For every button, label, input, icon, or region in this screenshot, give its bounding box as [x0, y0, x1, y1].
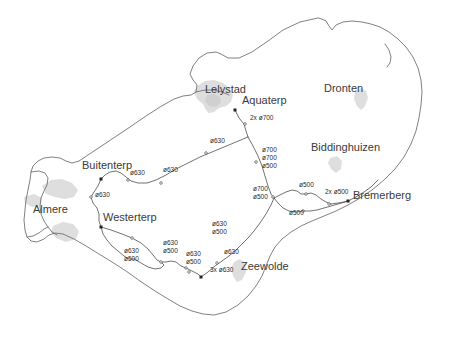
node-valve-marker: [328, 203, 331, 206]
urban-area-dronten: [354, 88, 368, 110]
urban-area-biddinghuizen: [328, 156, 342, 173]
pipe-diameter-label: ø630ø500: [124, 247, 139, 263]
node-valve-marker: [305, 193, 308, 196]
pipe-diameter-label: ø630: [163, 166, 178, 174]
node-station-marker: [347, 200, 350, 203]
pipe-diameter-label: ø630: [130, 169, 145, 177]
pipe-diameter-label: 2x ø700: [250, 114, 274, 122]
node-valve-marker: [205, 152, 208, 155]
node-valve-marker: [255, 161, 258, 164]
pipe-diameter-label: ø630ø500: [212, 220, 227, 236]
pipe-diameter-label: 3x ø630: [210, 266, 234, 274]
node-valve-marker: [90, 196, 93, 199]
node-valve-marker: [160, 182, 163, 185]
coastline-detail-ne: [385, 44, 391, 67]
pipe-diameter-label: ø630: [95, 191, 110, 199]
pipe-diameter-label: 2x ø500: [325, 188, 349, 196]
pipe-diameter-label: ø500: [299, 181, 314, 189]
node-valve-marker: [216, 262, 219, 265]
pipe-north-west-corridor: [101, 137, 248, 183]
node-valve-marker: [272, 196, 275, 199]
map-canvas: [0, 0, 450, 350]
coastline-detail-notch: [27, 227, 48, 237]
pipe-diameter-label: ø630ø500: [186, 250, 201, 266]
node-valve-marker: [160, 261, 163, 264]
flevoland-pipeline-map: LelystadAquaterpDrontenBiddinghuizenBrem…: [0, 0, 450, 350]
pipe-bremerberg-coast: [348, 180, 378, 201]
node-station-marker: [200, 276, 203, 279]
pipe-buitenterp-south: [91, 179, 101, 227]
node-station-marker: [100, 178, 103, 181]
node-valve-marker: [244, 123, 247, 126]
pipe-diameter-label: ø700ø700ø500: [262, 146, 277, 170]
pipe-diameter-label: ø630: [210, 137, 225, 145]
node-station-marker: [100, 226, 103, 229]
pipe-diameter-label: ø700ø500: [253, 185, 268, 201]
pipe-east-loop-upper: [274, 190, 331, 204]
pipe-diameter-label: ø630: [224, 248, 239, 256]
node-valve-marker: [188, 271, 191, 274]
node-valve-marker: [185, 267, 188, 270]
pipe-east-loop-lower: [274, 198, 348, 212]
node-station-marker: [234, 109, 237, 112]
node-valve-marker: [131, 237, 134, 240]
pipe-diameter-label: ø500: [289, 209, 304, 217]
pipe-diameter-label: ø630ø500: [163, 239, 178, 255]
node-valve-marker: [127, 179, 130, 182]
